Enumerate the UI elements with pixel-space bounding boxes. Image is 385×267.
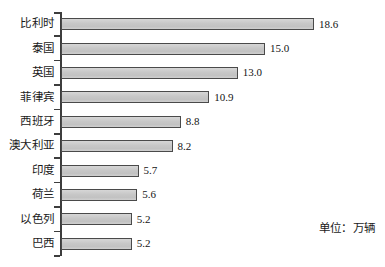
category-label: 澳大利亚: [0, 134, 54, 158]
bar-container: 5.6: [61, 183, 156, 207]
bar-value-label: 15.0: [270, 43, 289, 54]
bar-value-label: 5.2: [137, 238, 151, 249]
bar: [61, 18, 314, 30]
bar-row: 澳大利亚8.2: [0, 134, 385, 158]
bar-value-label: 5.2: [137, 214, 151, 225]
category-label: 比利时: [0, 12, 54, 36]
bar: [61, 189, 137, 201]
category-label: 印度: [0, 158, 54, 182]
bar-chart: 比利时18.6泰国15.0英国13.0菲律宾10.9西班牙8.8澳大利亚8.2印…: [0, 0, 385, 267]
bar-value-label: 8.2: [178, 141, 192, 152]
category-label: 以色列: [0, 207, 54, 231]
category-label: 英国: [0, 61, 54, 85]
bar: [61, 238, 132, 250]
bar-container: 5.7: [61, 158, 157, 182]
bar-row: 荷兰5.6: [0, 183, 385, 207]
bar-value-label: 5.7: [144, 165, 158, 176]
bar-row: 菲律宾10.9: [0, 85, 385, 109]
bar-row: 巴西5.2: [0, 232, 385, 256]
bar-container: 15.0: [61, 36, 289, 60]
bar-container: 8.2: [61, 134, 191, 158]
bar-container: 5.2: [61, 232, 150, 256]
bar-row: 泰国15.0: [0, 36, 385, 60]
category-label: 泰国: [0, 36, 54, 60]
bar-value-label: 18.6: [319, 19, 338, 30]
bar-value-label: 13.0: [243, 67, 262, 78]
bar-row: 西班牙8.8: [0, 110, 385, 134]
bar-row: 比利时18.6: [0, 12, 385, 36]
bar-container: 18.6: [61, 12, 338, 36]
bar: [61, 213, 132, 225]
bar-container: 10.9: [61, 85, 233, 109]
bar-container: 5.2: [61, 207, 150, 231]
bar-row: 英国13.0: [0, 61, 385, 85]
bar-value-label: 5.6: [142, 189, 156, 200]
bar: [61, 165, 139, 177]
bar-value-label: 8.8: [186, 116, 200, 127]
bar-container: 13.0: [61, 61, 262, 85]
bar: [61, 67, 238, 79]
category-label: 巴西: [0, 232, 54, 256]
bar: [61, 116, 181, 128]
category-label: 荷兰: [0, 183, 54, 207]
bar-container: 8.8: [61, 110, 199, 134]
bar: [61, 43, 265, 55]
bar: [61, 91, 209, 103]
bar: [61, 140, 173, 152]
category-label: 菲律宾: [0, 85, 54, 109]
bar-row: 印度5.7: [0, 158, 385, 182]
unit-note: 单位：万辆: [319, 219, 375, 235]
bar-value-label: 10.9: [214, 92, 233, 103]
category-label: 西班牙: [0, 110, 54, 134]
